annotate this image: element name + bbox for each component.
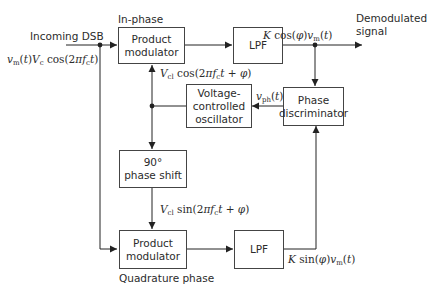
vco-label-2: controlled [193, 100, 245, 113]
in-phase-caption: In-phase [118, 13, 163, 26]
bottom-modulator-label-1: Product [133, 237, 173, 250]
bottom-product-modulator-block: Product modulator [119, 230, 187, 269]
phase-shift-label-2: phase shift [124, 169, 182, 182]
top-lpf-output-label: K cos(φ)vm(t) [263, 29, 332, 46]
quadrature-phase-caption: Quadrature phase [119, 272, 214, 285]
bottom-modulator-label-2: modulator [126, 250, 180, 263]
bottom-lpf-output-label: K sin(φ)vm(t) [288, 253, 355, 270]
phase-disc-label-2: discriminator [279, 107, 348, 120]
vco-sin-label: Vcl sin(2πfct + φ) [160, 203, 249, 220]
top-product-modulator-block: Product modulator [118, 27, 185, 64]
top-modulator-label-1: Product [132, 33, 172, 46]
bottom-lpf-block: LPF [234, 230, 284, 269]
vco-label-3: oscillator [195, 113, 243, 126]
vco-block: Voltage- controlled oscillator [186, 84, 252, 128]
phase-discriminator-block: Phase discriminator [283, 87, 344, 126]
input-signal-label: vm(t)Vc cos(2πfct) [7, 53, 98, 70]
output-title-2: signal [356, 25, 387, 38]
connection-lines [0, 0, 429, 298]
input-title: Incoming DSB [30, 30, 104, 43]
vph-label: vph(t) [256, 90, 283, 107]
vco-cos-label: Vcl cos(2πfct + φ) [160, 67, 251, 84]
top-modulator-label-2: modulator [124, 46, 178, 59]
bottom-lpf-label: LPF [250, 243, 268, 256]
vco-label-1: Voltage- [197, 87, 240, 100]
junction-dot-vco [150, 104, 155, 109]
phase-shift-block: 90° phase shift [119, 150, 187, 188]
phase-disc-label-1: Phase [298, 94, 329, 107]
phase-shift-label-1: 90° [144, 156, 163, 169]
output-title-1: Demodulated [356, 12, 427, 25]
junction-dot-input [98, 43, 103, 48]
